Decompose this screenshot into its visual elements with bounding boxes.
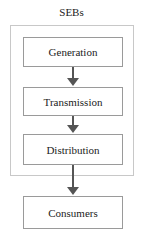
arrow-head-icon <box>67 78 79 86</box>
group-title: SEBs <box>0 6 143 18</box>
node-distribution: Distribution <box>23 134 123 165</box>
arrow-distribution-consumers <box>72 165 74 188</box>
node-transmission: Transmission <box>23 87 123 116</box>
arrow-head-icon <box>67 187 79 195</box>
node-generation: Generation <box>23 37 123 67</box>
arrow-head-icon <box>67 125 79 133</box>
node-consumers: Consumers <box>23 196 123 229</box>
